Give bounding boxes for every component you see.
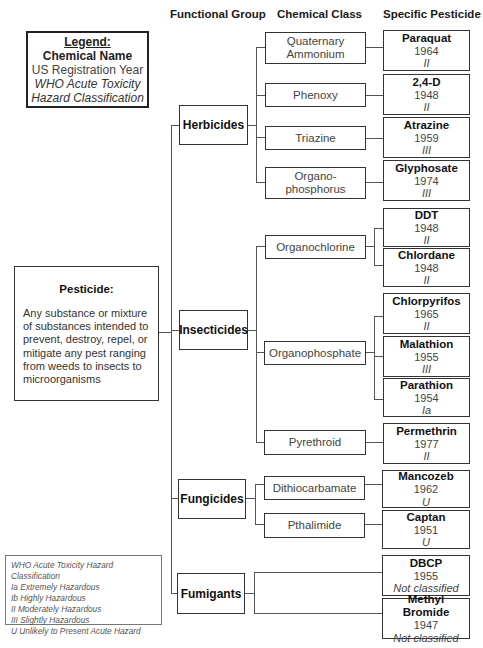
pesticide-hazard: III: [422, 144, 431, 157]
class-label: Phenoxy: [293, 89, 338, 102]
group-fungicides[interactable]: Fungicides: [178, 479, 246, 519]
pesticide-hazard: II: [423, 101, 429, 114]
pesticide-year: 1954: [414, 392, 438, 405]
pesticide-2-4-d[interactable]: 2,4-D 1948 II: [383, 74, 470, 115]
class-label: Triazine: [295, 132, 335, 145]
connector-line: [366, 95, 383, 96]
pesticide-hazard: II: [423, 274, 429, 287]
pesticide-year: 1974: [414, 175, 438, 188]
connector-line: [366, 352, 374, 353]
hazard-key-title: WHO Acute Toxicity Hazard Classification: [11, 560, 156, 582]
pesticide-name: Paraquat: [402, 32, 451, 45]
pesticide-year: 1947: [414, 619, 438, 632]
legend-registration-year: US Registration Year: [32, 63, 143, 77]
class-pthalimide[interactable]: Pthalimide: [264, 513, 365, 538]
class-organophosphorus[interactable]: Organo- phosphorus: [265, 167, 366, 199]
group-fumigants[interactable]: Fumigants: [177, 573, 245, 614]
pesticide-paraquat[interactable]: Paraquat 1964 II: [383, 30, 470, 71]
connector-line: [254, 572, 383, 573]
definition-title: Pesticide:: [23, 283, 150, 295]
class-phenoxy[interactable]: Phenoxy: [265, 83, 366, 107]
pesticide-year: 1948: [414, 222, 438, 235]
pesticide-captan[interactable]: Captan 1951 U: [382, 510, 470, 549]
pesticide-year: 1964: [414, 45, 438, 58]
class-dithiocarbamate[interactable]: Dithiocarbamate: [264, 476, 365, 500]
connector-line: [171, 330, 179, 331]
class-organophosphate[interactable]: Organophosphate: [264, 341, 366, 365]
connector-line: [366, 442, 383, 443]
pesticide-name: 2,4-D: [412, 76, 440, 89]
class-label-line2: Ammonium: [286, 48, 344, 61]
group-label: Fungicides: [180, 492, 243, 506]
pesticide-hazard: III: [422, 187, 431, 200]
connector-line: [248, 125, 256, 126]
pesticide-name: Malathion: [400, 338, 454, 351]
pesticide-methyl-bromide[interactable]: Methyl Bromide 1947 Not classified: [382, 598, 470, 639]
hazard-key-box: WHO Acute Toxicity Hazard Classification…: [5, 555, 162, 625]
legend-chemical-name: Chemical Name: [43, 49, 132, 63]
pesticide-name: Mancozeb: [398, 470, 454, 483]
class-triazine[interactable]: Triazine: [265, 126, 366, 150]
connector-line: [374, 228, 383, 229]
pesticide-malathion[interactable]: Malathion 1955 III: [383, 336, 470, 377]
pesticide-definition-box: Pesticide: Any substance or mixture of s…: [14, 266, 159, 401]
connector-line: [248, 330, 256, 331]
pesticide-year: 1955: [414, 351, 438, 364]
class-label: Dithiocarbamate: [273, 482, 357, 495]
connector-line: [374, 265, 383, 266]
legend-title: Legend:: [64, 35, 111, 49]
hazard-key-item: II Moderately Hazardous: [11, 604, 156, 615]
connector-line: [365, 484, 383, 485]
pesticide-hazard: Ia: [422, 404, 431, 417]
pesticide-atrazine[interactable]: Atrazine 1959 III: [383, 117, 470, 158]
group-label: Herbicides: [183, 118, 244, 132]
pesticide-dbcp[interactable]: DBCP 1955 Not classified: [382, 555, 470, 596]
pesticide-name: Chlorpyrifos: [392, 295, 460, 308]
pesticide-hazard: U: [422, 536, 430, 549]
group-herbicides[interactable]: Herbicides: [179, 105, 248, 145]
connector-line: [256, 47, 257, 183]
connector-line: [256, 95, 265, 96]
pesticide-name: Glyphosate: [395, 162, 458, 175]
connector-line: [366, 47, 383, 48]
pesticide-hazard: III: [422, 363, 431, 376]
pesticide-year: 1955: [414, 570, 438, 583]
pesticide-hazard: Not classified: [393, 632, 458, 645]
connector-line: [256, 137, 265, 138]
pesticide-mancozeb[interactable]: Mancozeb 1962 U: [382, 470, 470, 508]
connector-line: [366, 182, 383, 183]
hazard-key-item: U Unlikely to Present Acute Hazard: [11, 626, 156, 637]
pesticide-ddt[interactable]: DDT 1948 II: [383, 208, 470, 247]
connector-line: [255, 524, 264, 525]
pesticide-parathion[interactable]: Parathion 1954 Ia: [383, 378, 470, 417]
pesticide-name: Permethrin: [396, 425, 457, 438]
pesticide-chlorpyrifos[interactable]: Chlorpyrifos 1965 II: [383, 293, 470, 334]
connector-line: [256, 47, 265, 48]
pesticide-name: Parathion: [400, 379, 453, 392]
hazard-key-item: Ib Highly Hazardous: [11, 593, 156, 604]
pesticide-year: 1948: [414, 262, 438, 275]
group-insecticides[interactable]: Insecticides: [179, 310, 248, 350]
pesticide-hazard: II: [423, 57, 429, 70]
legend-hazard-line2: Hazard Classification: [31, 91, 144, 105]
connector-line: [366, 138, 383, 139]
legend-hazard-line1: WHO Acute Toxicity: [35, 77, 141, 91]
connector-line: [254, 613, 383, 614]
class-quaternary-ammonium[interactable]: Quaternary Ammonium: [265, 32, 366, 64]
class-pyrethroid[interactable]: Pyrethroid: [264, 430, 366, 455]
class-label: Pyrethroid: [289, 436, 341, 449]
connector-line: [256, 182, 265, 183]
class-organochlorine[interactable]: Organochlorine: [265, 235, 366, 259]
pesticide-year: 1965: [414, 308, 438, 321]
pesticide-year: 1959: [414, 132, 438, 145]
class-label: Organochlorine: [276, 241, 355, 254]
pesticide-hazard: II: [423, 450, 429, 463]
class-label: Pthalimide: [288, 519, 342, 532]
pesticide-chlordane[interactable]: Chlordane 1948 II: [383, 248, 470, 287]
pesticide-glyphosate[interactable]: Glyphosate 1974 III: [383, 160, 470, 201]
pesticide-name: Methyl Bromide: [383, 593, 469, 619]
connector-line: [366, 246, 374, 247]
pesticide-permethrin[interactable]: Permethrin 1977 II: [383, 423, 470, 464]
pesticide-year: 1951: [414, 524, 438, 537]
connector-line: [245, 593, 254, 594]
